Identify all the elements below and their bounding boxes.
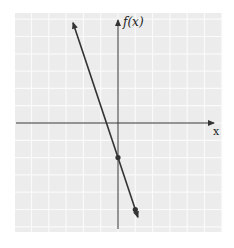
y-axis-label: f(x) bbox=[122, 15, 144, 29]
data-point bbox=[133, 207, 138, 212]
x-axis-label: x bbox=[213, 125, 220, 138]
data-point bbox=[115, 155, 120, 160]
function-graph: f(x) x bbox=[0, 0, 234, 248]
